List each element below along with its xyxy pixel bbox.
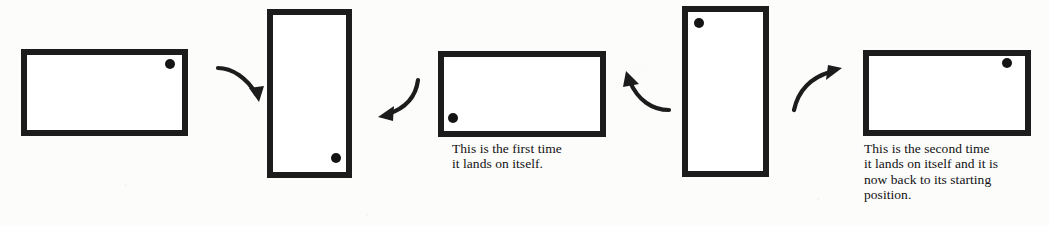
curved-arrow-up-left-icon xyxy=(612,66,674,124)
rotation-figure: This is the first time it lands on itsel… xyxy=(0,0,1049,226)
caption-first-landing: This is the first time it lands on itsel… xyxy=(452,141,562,172)
corner-dot-position-2 xyxy=(331,153,341,163)
corner-dot-position-1 xyxy=(165,59,175,69)
rectangle-position-1 xyxy=(21,49,188,136)
corner-dot-position-3 xyxy=(448,113,458,123)
curved-arrow-down-left-icon xyxy=(368,72,426,130)
curved-arrow-up-right-icon xyxy=(788,60,850,120)
corner-dot-position-4 xyxy=(694,18,704,28)
caption-second-landing: This is the second time it lands on itse… xyxy=(864,141,998,203)
rectangle-position-4 xyxy=(682,6,769,177)
curved-arrow-down-right-icon xyxy=(214,52,272,110)
corner-dot-position-5 xyxy=(1002,58,1012,68)
rectangle-position-3 xyxy=(438,51,606,137)
rectangle-position-2 xyxy=(267,9,352,178)
